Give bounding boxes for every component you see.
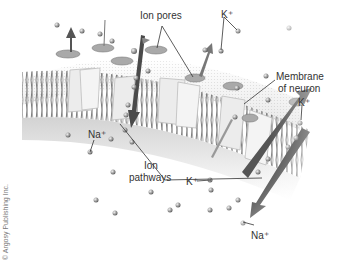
label-pathways: pathways	[129, 172, 171, 183]
label-membrane: Membrane	[276, 71, 324, 82]
label-na-bottom: Na⁺	[251, 230, 269, 241]
label-k-right: K⁺	[298, 97, 310, 108]
neuron-membrane-diagram: Ion pores K⁺ Membrane of neuron K⁺ Na⁺ I…	[0, 0, 340, 265]
label-ion-pores: Ion pores	[140, 10, 182, 21]
copyright-notice: © Argosy Publishing Inc.	[2, 184, 9, 260]
label-k-top: K⁺	[221, 9, 233, 20]
diagram-graphic	[0, 0, 340, 265]
label-of-neuron: of neuron	[278, 83, 320, 94]
label-ion: Ion	[144, 160, 158, 171]
label-na-left: Na⁺	[88, 129, 106, 140]
label-k-bottom: K⁺	[186, 176, 198, 187]
